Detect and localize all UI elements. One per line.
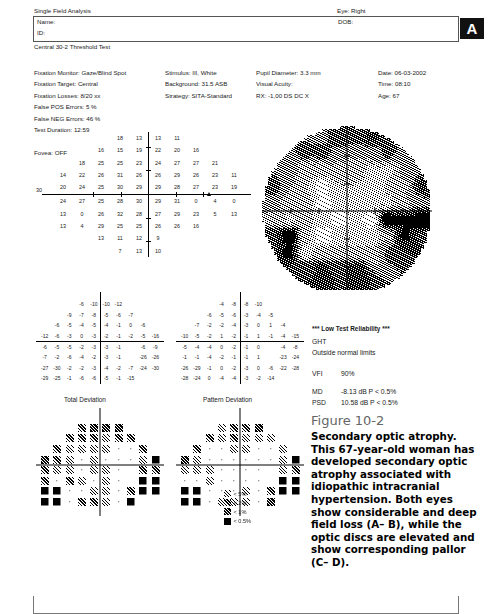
axis-tick — [146, 218, 151, 219]
pattern-deviation-value: -10 — [181, 333, 188, 338]
total-deviation-value: -12 — [115, 302, 122, 307]
grayscale-field-map — [262, 126, 432, 290]
total-deviation-value: -1 — [116, 344, 120, 349]
pattern-deviation-value: -3 — [244, 376, 248, 381]
pattern-deviation-value: -28 — [292, 365, 299, 370]
test-type-label: Central 30-2 Threshold Test — [34, 44, 110, 51]
legend-symbol-swatch — [224, 518, 231, 525]
threshold-value: 29 — [98, 224, 104, 229]
total-deviation-value: -7 — [129, 312, 133, 317]
total-deviation-value: -5 — [104, 312, 108, 317]
threshold-horizontal-axis — [42, 194, 251, 195]
total-deviation-value: -2 — [92, 355, 96, 360]
pattern-deviation-value: -8 — [232, 302, 236, 307]
pattern-deviation-value: -4 — [256, 312, 260, 317]
threshold-value: 20 — [174, 148, 180, 153]
threshold-value: 25 — [136, 224, 142, 229]
total-deviation-numeric-plot: -6-10-10-12-9-7-8-5-6-7-6-5-4-5-4-10-6-1… — [36, 292, 164, 384]
threshold-value: 13 — [231, 212, 237, 217]
threshold-value: 25 — [117, 224, 123, 229]
pattern-deviation-value: -2 — [219, 355, 223, 360]
threshold-value: 22 — [155, 148, 161, 153]
pattern-deviation-value: -2 — [232, 344, 236, 349]
pattern-deviation-value: -4 — [219, 376, 223, 381]
fixation-param-line-0: Fixation Monitor: Gaze/Blind Spot — [34, 67, 126, 78]
total-deviation-value: -30 — [53, 365, 60, 370]
date-param-line-1: Time: 08:10 — [378, 78, 426, 89]
total-deviation-symbol-plot — [36, 408, 164, 516]
threshold-value: 18 — [117, 136, 123, 141]
pattern-deviation-caption: Pattern Deviation — [203, 396, 252, 403]
pattern-deviation-value: -26 — [181, 365, 188, 370]
pattern-deviation-value: 0 — [208, 376, 211, 381]
reliability-warning: *** Low Test Reliability *** — [312, 325, 390, 332]
pattern-deviation-value: 0 — [257, 365, 260, 370]
threshold-value: 7 — [119, 249, 122, 254]
total-deviation-vertical-axis — [100, 292, 101, 384]
pattern-deviation-value: -1 — [244, 355, 248, 360]
threshold-value: 0 — [233, 199, 236, 204]
total-deviation-value: -10 — [90, 302, 97, 307]
pattern-deviation-value: 1 — [269, 323, 272, 328]
psd-value: 10.58 dB P < 0.5% — [341, 399, 398, 406]
pattern-deviation-value: -4 — [207, 344, 211, 349]
total-deviation-value: -6 — [141, 323, 145, 328]
threshold-value: 26 — [155, 173, 161, 178]
legend-row: < 2% — [224, 498, 251, 507]
pattern-deviation-value: -1 — [232, 355, 236, 360]
threshold-value: 4 — [81, 224, 84, 229]
total-deviation-value: 0 — [129, 323, 132, 328]
total-deviation-value: -26 — [139, 355, 146, 360]
threshold-value: 30 — [136, 199, 142, 204]
total-deviation-value: -15 — [127, 376, 134, 381]
total-deviation-value: -1 — [67, 376, 71, 381]
pattern-deviation-value: -2 — [256, 376, 260, 381]
total-deviation-value: -9 — [67, 312, 71, 317]
threshold-value: 19 — [231, 186, 237, 191]
total-deviation-value: -3 — [92, 344, 96, 349]
pattern-deviation-value: 1 — [220, 333, 223, 338]
pattern-deviation-value: -29 — [193, 365, 200, 370]
total-deviation-value: -8 — [92, 312, 96, 317]
param-column-pupil: Pupil Diameter: 3.3 mmVisual Acuity:RX: … — [256, 67, 321, 101]
axis-tick — [146, 147, 151, 148]
pattern-deviation-value: -1 — [244, 333, 248, 338]
total-deviation-value: -5 — [67, 323, 71, 328]
total-deviation-value: -4 — [79, 323, 83, 328]
pattern-deviation-value: -23 — [279, 355, 286, 360]
legend-row: < 1% — [224, 507, 251, 516]
total-deviation-value: -6 — [79, 376, 83, 381]
stimulus-param-line-1: Background: 31.5 ASB — [165, 78, 232, 89]
threshold-value: 26 — [174, 224, 180, 229]
threshold-value: 21 — [212, 161, 218, 166]
total-deviation-caption: Total Deviation — [64, 396, 106, 403]
total-deviation-value: -6 — [116, 312, 120, 317]
patient-id-box — [33, 16, 459, 42]
pattern-deviation-value: 0 — [220, 365, 223, 370]
probability-legend: < 5%< 2%< 1%< 0.5% — [224, 489, 251, 526]
id-label: ID: — [37, 30, 45, 37]
threshold-value: 23 — [212, 173, 218, 178]
axis-tick — [93, 192, 94, 197]
threshold-value: 32 — [117, 212, 123, 217]
threshold-value: 27 — [155, 212, 161, 217]
pattern-deviation-value: -3 — [244, 323, 248, 328]
threshold-value: 10 — [155, 249, 161, 254]
legend-label: < 5% — [234, 491, 247, 497]
total-deviation-value: -29 — [41, 376, 48, 381]
param-column-date: Date: 06-03-2002Time: 08:10Age: 67 — [378, 67, 426, 101]
threshold-value: 16 — [193, 224, 199, 229]
threshold-value: 12 — [136, 237, 142, 242]
pattern-deviation-value: -15 — [292, 333, 299, 338]
pattern-deviation-value: -28 — [181, 376, 188, 381]
threshold-value: 11 — [117, 237, 123, 242]
threshold-value: 25 — [98, 199, 104, 204]
pupil-param-line-1: Visual Acuity: — [256, 78, 321, 89]
threshold-value: 29 — [174, 173, 180, 178]
fixation-param-line-4: False NEG Errors: 46 % — [34, 113, 126, 124]
total-deviation-value: -2 — [79, 365, 83, 370]
total-deviation-value: -12 — [41, 333, 48, 338]
total-deviation-value: -27 — [41, 365, 48, 370]
pattern-deviation-value: -22 — [279, 365, 286, 370]
report-title: Single Field Analysis — [34, 8, 91, 15]
